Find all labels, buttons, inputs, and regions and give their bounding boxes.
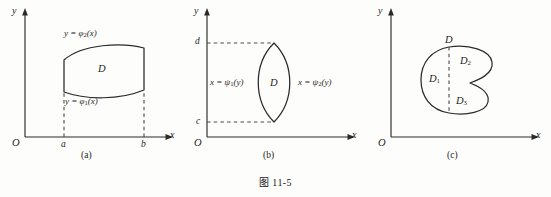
origin-label-a: O: [12, 138, 20, 149]
lower-curve-equation-a: y = φ1(x): [65, 97, 98, 107]
y-tick-d: d: [195, 37, 200, 47]
right-curve-equation-suffix-b: (y): [321, 77, 331, 87]
sub-region-d2-sub: 2: [468, 59, 471, 66]
figure-container: y x O a b y = φ2(x) y = φ1(x) D (a) y: [0, 0, 551, 197]
panel-c-graphic: [366, 0, 550, 165]
upper-curve-equation-prefix-a: y = φ: [64, 28, 84, 38]
left-curve-equation-suffix-b: (y): [233, 77, 243, 87]
panel-caption-a: (a): [81, 150, 92, 160]
sub-region-d2-prefix: D: [460, 55, 468, 66]
sub-region-label-d2: D2: [460, 56, 471, 67]
sub-region-d3-prefix: D: [456, 95, 464, 106]
y-axis-arrow-icon-a: [22, 8, 28, 16]
panel-b: y x O d c x = ψ1(y) x = ψ2(y) D (b): [182, 0, 366, 165]
x-tick-b: b: [141, 140, 146, 150]
panel-caption-b: (b): [263, 150, 274, 160]
lower-curve-equation-suffix-a: (x): [88, 96, 98, 106]
right-curve-equation-b: x = ψ2(y): [298, 78, 331, 88]
y-axis-label-a: y: [12, 6, 16, 16]
panel-c: y x O D D1 D2 D3 (c): [366, 0, 550, 165]
region-label-b: D: [270, 78, 278, 89]
y-axis-arrow-icon-b: [204, 8, 210, 16]
sub-region-d3-sub: 3: [464, 99, 467, 106]
lower-curve-equation-prefix-a: y = φ: [65, 96, 85, 106]
y-axis-arrow-icon-c: [388, 8, 394, 16]
upper-curve-equation-suffix-a: (x): [87, 28, 97, 38]
region-label-c: D: [445, 35, 453, 46]
origin-label-b: O: [194, 138, 202, 149]
right-curve-equation-prefix-b: x = ψ: [298, 77, 318, 87]
x-axis-label-b: x: [352, 130, 356, 140]
x-axis-label-c: x: [536, 130, 540, 140]
y-axis-label-b: y: [194, 6, 198, 16]
origin-label-c: O: [378, 138, 386, 149]
region-label-a: D: [98, 64, 106, 75]
upper-curve-equation-a: y = φ2(x): [64, 29, 97, 39]
left-curve-equation-b: x = ψ1(y): [210, 78, 243, 88]
left-curve-equation-prefix-b: x = ψ: [210, 77, 230, 87]
panel-a: y x O a b y = φ2(x) y = φ1(x) D (a): [0, 0, 184, 165]
figure-caption: 图 11-5: [0, 174, 551, 189]
sub-region-label-d3: D3: [456, 96, 467, 107]
sub-region-label-d1: D1: [429, 74, 440, 85]
y-axis-label-c: y: [378, 6, 382, 16]
panel-caption-c: (c): [447, 150, 458, 160]
x-axis-label-a: x: [170, 130, 174, 140]
y-tick-c: c: [196, 117, 200, 127]
x-tick-a: a: [61, 140, 66, 150]
sub-region-d1-sub: 1: [437, 77, 440, 84]
panel-a-graphic: [0, 0, 184, 165]
sub-region-d1-prefix: D: [429, 73, 437, 84]
